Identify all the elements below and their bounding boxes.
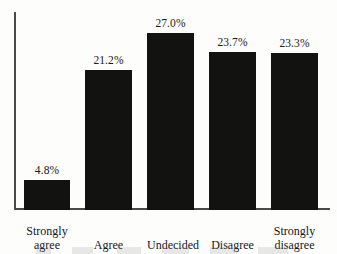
bar-value-label: 21.2% <box>85 54 132 66</box>
bar-value-label: 23.3% <box>271 37 318 49</box>
bar-rect <box>209 52 256 210</box>
category-label-line: Strongly <box>24 225 70 239</box>
bar-value-label: 23.7% <box>209 36 256 48</box>
bar-group: 21.2%Agree <box>85 0 132 254</box>
bar-rect <box>24 180 70 210</box>
bars-layer: 4.8%Stronglyagree21.2%Agree27.0%Undecide… <box>0 0 337 254</box>
bar-value-label: 4.8% <box>24 164 70 176</box>
bar-group: 27.0%Undecided <box>147 0 194 254</box>
bar-chart-figure: 4.8%Stronglyagree21.2%Agree27.0%Undecide… <box>0 0 337 254</box>
bar-rect <box>147 33 194 210</box>
bar-value-label: 27.0% <box>147 17 194 29</box>
bar-group: 4.8%Stronglyagree <box>24 0 70 254</box>
bar-group: 23.7%Disagree <box>209 0 256 254</box>
category-label-line: Strongly <box>271 225 318 239</box>
bar-rect <box>85 70 132 210</box>
scan-bleed-artifact <box>18 247 318 254</box>
bar-group: 23.3%Stronglydisagree <box>271 0 318 254</box>
bar-rect <box>271 53 318 210</box>
